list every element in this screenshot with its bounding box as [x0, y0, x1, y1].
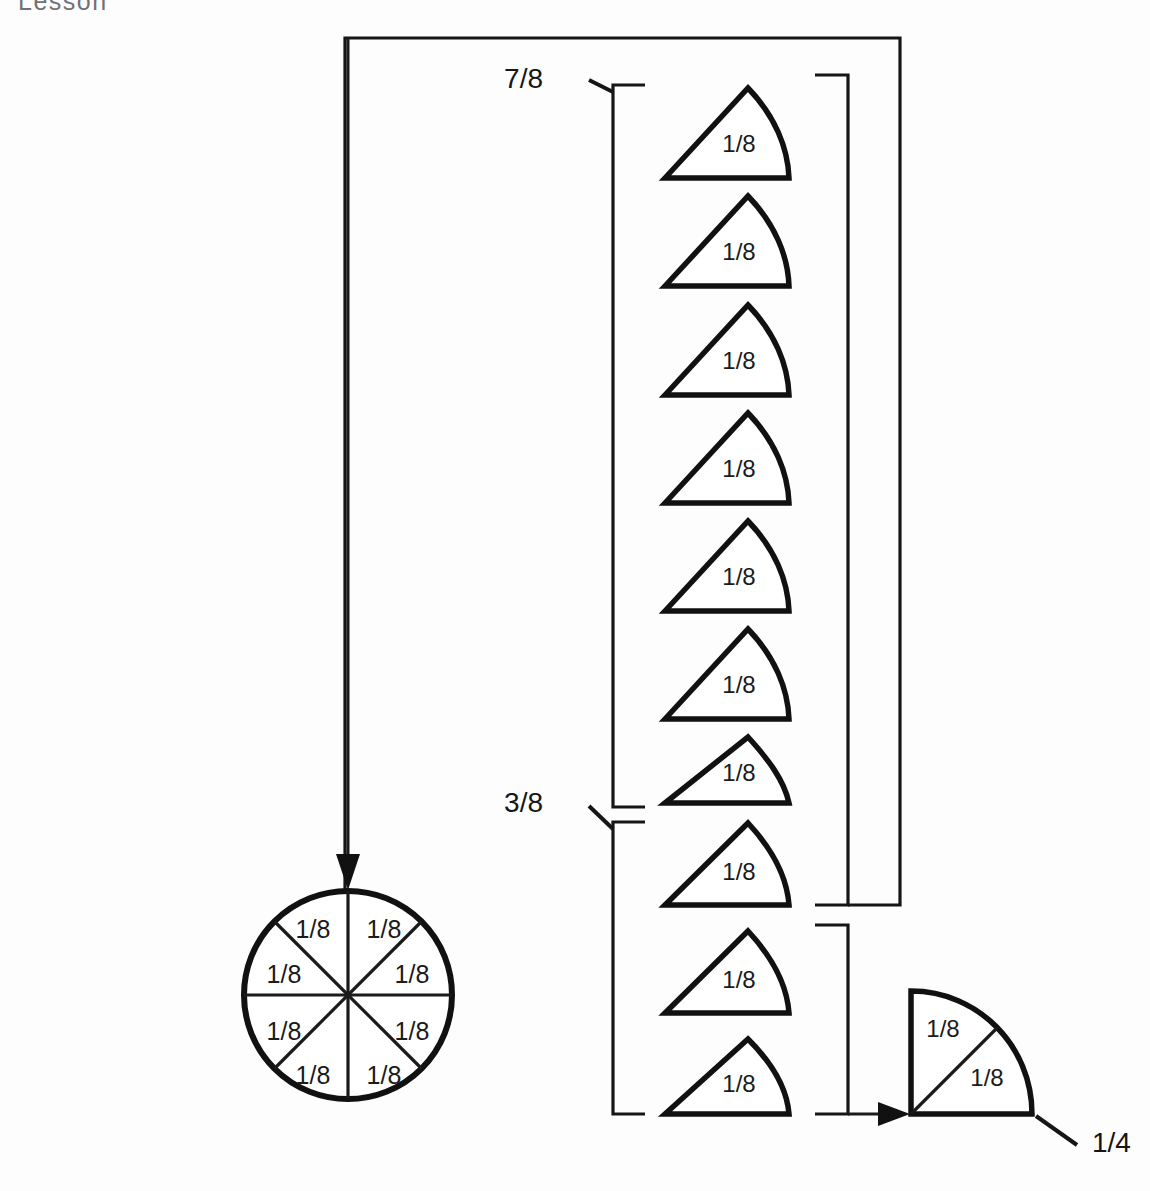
- list-item: 1/8: [665, 521, 789, 611]
- diagram-page: Lesson 7/8 3/8: [0, 0, 1150, 1191]
- sector-label: 1/8: [722, 1070, 755, 1097]
- label-one-quarter: 1/4: [1092, 1127, 1131, 1158]
- circle-sector-label: 1/8: [267, 1017, 302, 1045]
- sector-label: 1/8: [722, 858, 755, 885]
- list-item: 1/8: [665, 196, 789, 286]
- list-item: 1/8: [665, 931, 789, 1013]
- list-item: 1/8: [665, 823, 789, 905]
- sector-label: 1/8: [722, 966, 755, 993]
- list-item: 1/8: [665, 629, 789, 719]
- quarter-sector-label: 1/8: [970, 1064, 1003, 1091]
- quarter-result-annotation: 1/4: [1036, 1116, 1131, 1158]
- list-item: 1/8: [665, 1039, 789, 1114]
- sector-label: 1/8: [722, 759, 755, 786]
- sector-label: 1/8: [722, 238, 755, 265]
- list-item: 1/8: [665, 413, 789, 503]
- circle-sector-label: 1/8: [296, 915, 331, 943]
- outer-routing-line: [345, 38, 900, 905]
- label-three-eighths: 3/8: [504, 787, 543, 818]
- arrow-to-whole-circle: [336, 38, 360, 890]
- right-bracket-two-eighths: [815, 925, 848, 1114]
- circle-sector-label: 1/8: [367, 1061, 402, 1089]
- bracket-three-eighths: [589, 806, 645, 1114]
- circle-sector-label: 1/8: [296, 1061, 331, 1089]
- list-item: 1/8: [665, 88, 789, 178]
- fraction-diagram-canvas: 7/8 3/8 1/8 1/8: [0, 0, 1150, 1191]
- sector-label: 1/8: [722, 130, 755, 157]
- whole-circle: 1/8 1/8 1/8 1/8 1/8 1/8 1/8 1/8: [244, 891, 452, 1099]
- circle-sector-label: 1/8: [395, 1017, 430, 1045]
- sector-label: 1/8: [722, 455, 755, 482]
- bracket-seven-eighths: [589, 80, 645, 807]
- arrow-to-quarter-piece: [848, 1102, 910, 1126]
- sector-label: 1/8: [722, 563, 755, 590]
- quarter-circle-piece: 1/8 1/8: [911, 991, 1032, 1114]
- list-item: 1/8: [665, 305, 789, 395]
- quarter-sector-label: 1/8: [926, 1015, 959, 1042]
- list-item: 1/8: [665, 737, 789, 803]
- sector-label: 1/8: [722, 671, 755, 698]
- circle-sector-label: 1/8: [267, 960, 302, 988]
- right-bracket-seven-eighths: [815, 75, 848, 905]
- label-seven-eighths: 7/8: [504, 63, 543, 94]
- circle-sector-label: 1/8: [395, 960, 430, 988]
- sector-label: 1/8: [722, 347, 755, 374]
- circle-sector-label: 1/8: [367, 915, 402, 943]
